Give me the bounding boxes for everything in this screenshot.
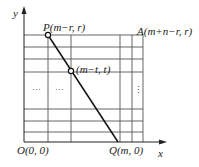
- x-axis-label: x: [157, 147, 163, 159]
- x-axis-arrow-icon: [159, 140, 167, 145]
- label-q: Q(m, 0): [109, 144, 144, 157]
- label-t: (m−t, t): [76, 63, 111, 76]
- y-axis-arrow-icon: [22, 6, 27, 14]
- point-p: [45, 32, 50, 37]
- lattice-path-diagram: ··· ··· ⋮ y x P(m−r, r) (m−t, t) A(m+n−r…: [0, 0, 199, 167]
- label-o: O(0, 0): [17, 144, 49, 157]
- label-a: A(m+n−r, r): [136, 25, 193, 38]
- y-axis-label: y: [12, 7, 18, 19]
- label-p: P(m−r, r): [42, 21, 86, 34]
- ellipsis-2: ···: [55, 84, 64, 94]
- ellipsis-1: ···: [32, 84, 41, 94]
- point-t: [68, 68, 73, 73]
- ellipsis-vertical: ⋮: [134, 85, 143, 95]
